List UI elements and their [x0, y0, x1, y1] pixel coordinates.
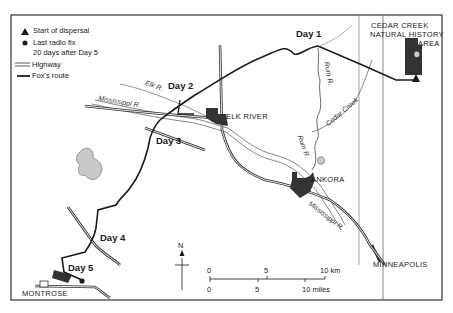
legend-dot-icon — [23, 41, 28, 46]
scale-km-5: 5 — [264, 266, 268, 275]
legend-lastfix-sublabel: 20 days after Day 5 — [33, 48, 98, 57]
start-triangle-icon — [412, 74, 420, 82]
scale-km-10: 10 km — [320, 266, 340, 275]
scale-km-0: 0 — [207, 266, 211, 275]
north-label: N — [178, 241, 183, 250]
montrose-label: MONTROSE — [22, 289, 68, 298]
cedar-creek-label-1: CEDAR CREEK — [371, 21, 428, 30]
day4-label: Day 4 — [100, 232, 125, 243]
lake — [77, 148, 102, 179]
north-arrow-icon — [175, 250, 189, 290]
elk-river-label: ELK RIVER — [226, 112, 268, 121]
legend-triangle-icon — [21, 28, 29, 35]
scale-mi-0: 0 — [207, 285, 211, 294]
cedar-creek-label-2: NATURAL HISTORY — [370, 30, 444, 39]
scale-mi-10: 10 miles — [302, 285, 330, 294]
minneapolis-label: MINNEAPOLIS — [373, 260, 428, 269]
legend-route-label: Fox's route — [32, 71, 69, 80]
day2-label: Day 2 — [168, 80, 193, 91]
montrose-building — [40, 281, 48, 287]
legend-lastfix-label: Last radio fix — [33, 38, 76, 47]
scale-bar — [210, 276, 325, 282]
lake-small — [317, 157, 324, 164]
last-fix-dot-icon — [79, 278, 84, 283]
tributary — [320, 25, 352, 46]
scale-mi-5: 5 — [255, 285, 259, 294]
legend-start-label: Start of dispersal — [33, 26, 89, 35]
elk-river-urban — [206, 108, 228, 126]
day1-label: Day 1 — [296, 28, 321, 39]
day3-label: Day 3 — [156, 135, 181, 146]
cedar-creek-label-3: AREA — [418, 39, 440, 48]
day5-label: Day 5 — [68, 262, 93, 273]
day2-marker — [178, 100, 194, 114]
legend-highway-label: Highway — [32, 60, 61, 69]
ankora-label: ANKORA — [311, 175, 344, 184]
cedar-creek-stream — [312, 60, 372, 132]
rum-river — [312, 48, 321, 170]
cedar-creek-lake — [414, 52, 419, 58]
